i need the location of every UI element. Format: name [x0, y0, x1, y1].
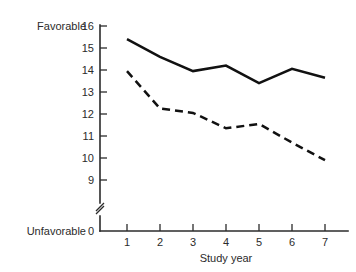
x-tick-label-2: 2 [157, 236, 163, 248]
y-tick-label-11: 11 [83, 130, 94, 142]
x-axis-title: Study year [200, 252, 253, 264]
line-chart: 16 15 14 13 12 11 10 9 0 Favorable Unfav… [0, 0, 356, 272]
series-line-dashed [127, 71, 325, 160]
y-tick-label-12: 12 [82, 108, 94, 120]
y-tick-label-15: 15 [82, 42, 94, 54]
favorable-label: Favorable [37, 20, 86, 32]
unfavorable-label: Unfavorable [27, 225, 86, 237]
y-tick-marks [100, 26, 107, 180]
y-tick-label-0: 0 [88, 225, 94, 237]
x-tick-label-5: 5 [256, 236, 262, 248]
y-tick-label-13: 13 [82, 86, 94, 98]
x-tick-label-7: 7 [322, 236, 328, 248]
y-tick-label-14: 14 [82, 64, 94, 76]
y-tick-label-10: 10 [82, 152, 94, 164]
x-tick-label-6: 6 [289, 236, 295, 248]
chart-container: 16 15 14 13 12 11 10 9 0 Favorable Unfav… [0, 0, 356, 272]
x-tick-label-3: 3 [190, 236, 196, 248]
y-axis-group [96, 25, 104, 231]
y-axis-break-icon [96, 203, 104, 214]
x-tick-label-4: 4 [223, 236, 229, 248]
x-tick-labels: 1 2 3 4 5 6 7 [124, 236, 328, 248]
y-tick-labels: 16 15 14 13 12 11 10 9 0 [82, 20, 94, 237]
series-line-solid [127, 39, 325, 83]
y-tick-label-9: 9 [88, 174, 94, 186]
x-tick-marks [127, 224, 325, 231]
x-tick-label-1: 1 [124, 236, 130, 248]
